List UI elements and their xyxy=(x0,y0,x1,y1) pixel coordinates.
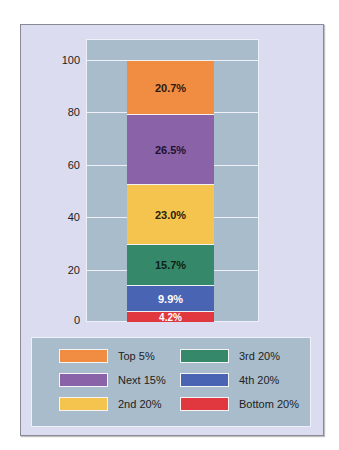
legend-label: Bottom 20% xyxy=(239,398,299,410)
legend-item-bottom-20: Bottom 20% xyxy=(180,395,299,413)
segment-label: 23.0% xyxy=(155,209,186,221)
legend-label: Top 5% xyxy=(118,350,155,362)
legend-item-3rd-20: 3rd 20% xyxy=(180,347,280,365)
y-tick-60: 60 xyxy=(40,159,80,171)
y-tick-0: 0 xyxy=(40,314,80,326)
legend-swatch xyxy=(59,349,108,363)
legend-swatch xyxy=(180,349,229,363)
legend-label: 4th 20% xyxy=(239,374,279,386)
segment-label: 20.7% xyxy=(155,82,186,94)
segment-label: 4.2% xyxy=(159,312,182,323)
y-tick-100: 100 xyxy=(40,54,80,66)
stacked-bar: 20.7% 26.5% 23.0% 15.7% 9.9% 4.2% xyxy=(127,60,214,322)
y-tick-40: 40 xyxy=(40,211,80,223)
segment-bottom-20: 4.2% xyxy=(127,311,214,322)
legend-swatch xyxy=(59,373,108,387)
segment-label: 26.5% xyxy=(155,144,186,156)
legend-swatch xyxy=(180,397,229,411)
legend-item-4th-20: 4th 20% xyxy=(180,371,279,389)
segment-top-5: 20.7% xyxy=(127,60,214,114)
legend-item-2nd-20: 2nd 20% xyxy=(59,395,161,413)
segment-2nd-20: 23.0% xyxy=(127,184,214,244)
y-tick-20: 20 xyxy=(40,264,80,276)
y-tick-80: 80 xyxy=(40,106,80,118)
legend-label: 2nd 20% xyxy=(118,398,161,410)
legend-swatch xyxy=(59,397,108,411)
legend-label: Next 15% xyxy=(118,374,166,386)
segment-next-15: 26.5% xyxy=(127,114,214,184)
segment-3rd-20: 15.7% xyxy=(127,244,214,285)
legend-label: 3rd 20% xyxy=(239,350,280,362)
legend-item-top-5: Top 5% xyxy=(59,347,155,365)
legend-swatch xyxy=(180,373,229,387)
segment-label: 15.7% xyxy=(155,259,186,271)
segment-label: 9.9% xyxy=(158,293,183,305)
segment-4th-20: 9.9% xyxy=(127,285,214,311)
legend: Top 5% Next 15% 2nd 20% 3rd 20% 4th 20% … xyxy=(31,337,311,427)
legend-item-next-15: Next 15% xyxy=(59,371,166,389)
